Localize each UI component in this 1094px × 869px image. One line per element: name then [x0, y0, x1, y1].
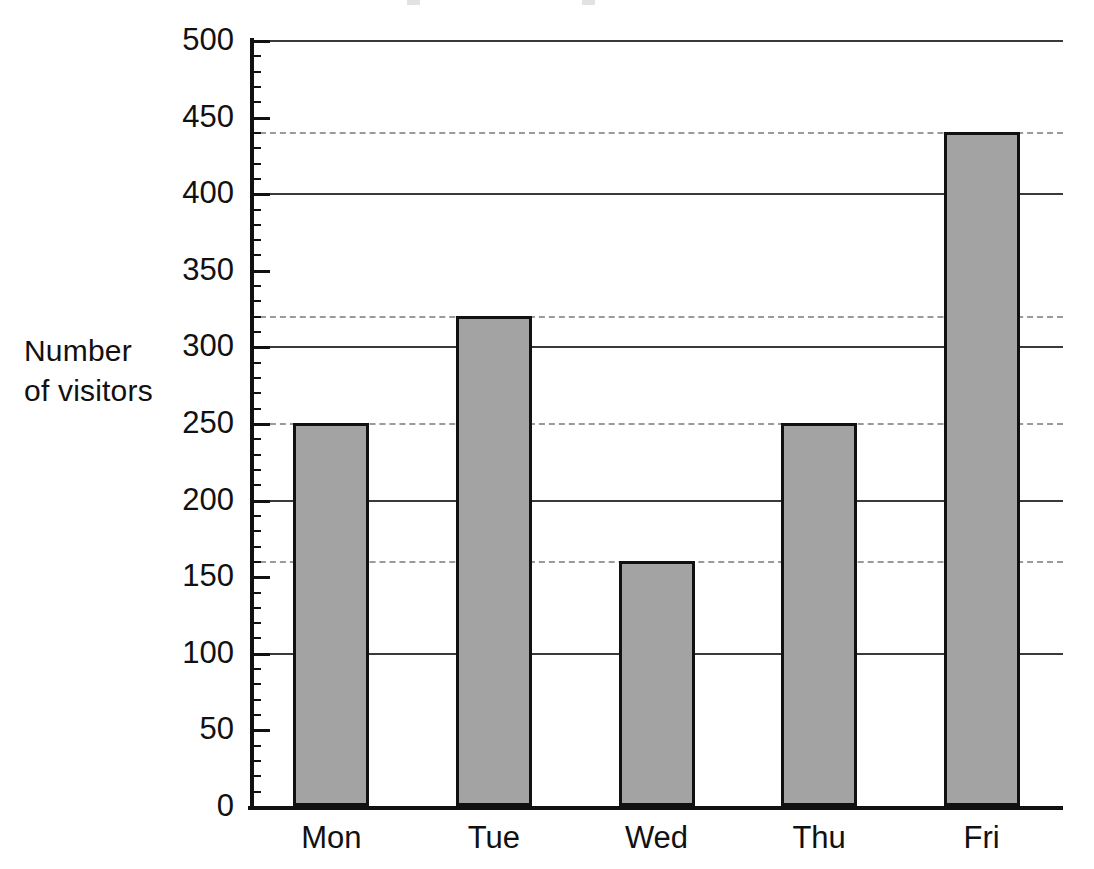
x-tick-label-thu: Thu — [739, 818, 899, 858]
y-tick-label-400: 400 — [134, 177, 234, 208]
scan-artifact — [407, 0, 420, 5]
y-tick-label-150: 150 — [134, 560, 234, 591]
y-axis-line — [250, 38, 254, 810]
grid-line-400 — [250, 193, 1063, 195]
bar-thu — [781, 423, 857, 806]
value-guide-line-250 — [250, 423, 1063, 425]
value-guide-line-320 — [250, 316, 1063, 318]
grid-line-500 — [250, 40, 1063, 42]
bar-fri — [944, 132, 1020, 806]
x-tick-label-wed: Wed — [577, 818, 737, 858]
y-axis-tick-labels: 050100150200250300350400450500 — [120, 0, 234, 869]
y-tick-label-200: 200 — [134, 484, 234, 515]
scan-artifact — [582, 0, 595, 5]
bar-tue — [456, 316, 532, 806]
y-tick-label-300: 300 — [134, 330, 234, 361]
y-tick-label-250: 250 — [134, 407, 234, 438]
x-tick-label-mon: Mon — [251, 818, 411, 858]
bar-wed — [619, 561, 695, 806]
x-tick-label-fri: Fri — [902, 818, 1062, 858]
value-guide-line-440 — [250, 132, 1063, 134]
bar-chart: Number of visitors 050100150200250300350… — [0, 0, 1094, 869]
y-tick-label-450: 450 — [134, 101, 234, 132]
bar-mon — [293, 423, 369, 806]
plot-area — [250, 40, 1063, 806]
x-tick-label-tue: Tue — [414, 818, 574, 858]
grid-line-300 — [250, 346, 1063, 348]
x-axis-line — [248, 806, 1063, 810]
y-tick-label-0: 0 — [134, 790, 234, 821]
y-tick-label-50: 50 — [134, 713, 234, 744]
y-tick-label-100: 100 — [134, 637, 234, 668]
y-tick-label-500: 500 — [134, 24, 234, 55]
y-tick-label-350: 350 — [134, 254, 234, 285]
grid-line-200 — [250, 500, 1063, 502]
